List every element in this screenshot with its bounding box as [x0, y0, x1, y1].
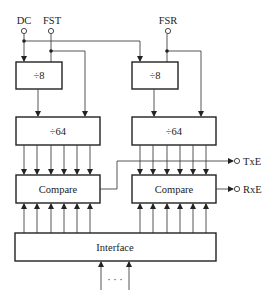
- div64-right-label: ÷64: [166, 126, 183, 137]
- txe-output-label: TxE: [243, 156, 261, 167]
- dc-input-label: DC: [17, 15, 32, 26]
- fsr-terminal-icon: [165, 28, 170, 33]
- fsr-input-label: FSR: [159, 15, 178, 26]
- fst-input-label: FST: [43, 15, 62, 26]
- bus-ellipsis: · · ·: [107, 274, 123, 285]
- interface-label: Interface: [96, 242, 134, 253]
- txe-terminal-icon: [234, 158, 239, 163]
- rxe-output-label: RxE: [243, 184, 262, 195]
- compare-left-label: Compare: [39, 184, 78, 195]
- fst-terminal-icon: [48, 28, 53, 33]
- div64-left-label: ÷64: [50, 126, 67, 137]
- interface-to-left-compare-bus: [24, 204, 90, 233]
- rxe-terminal-icon: [234, 186, 239, 191]
- compare-right-label: Compare: [155, 184, 194, 195]
- div8-left-label: ÷8: [33, 70, 44, 81]
- dc-junction-dot: [22, 39, 26, 43]
- dc-terminal-icon: [21, 28, 26, 33]
- left-div64-to-compare-bus: [24, 145, 90, 174]
- interface-to-right-compare-bus: [140, 204, 206, 233]
- div8-right-label: ÷8: [149, 70, 160, 81]
- right-div64-to-compare-bus: [140, 145, 206, 174]
- fst-junction-dot: [49, 49, 53, 53]
- block-diagram: DC FST FSR ÷8 ÷8 ÷64 ÷64: [0, 0, 275, 306]
- fsr-junction-dot: [165, 49, 169, 53]
